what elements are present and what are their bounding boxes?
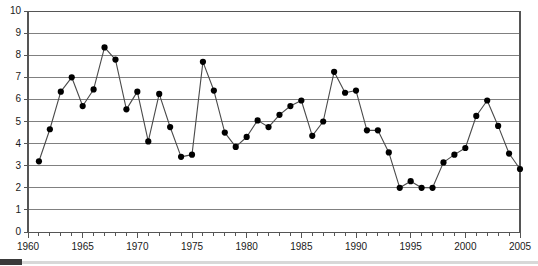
x-axis-tick-label: 1985 bbox=[281, 242, 321, 252]
data-point bbox=[167, 124, 173, 130]
data-point bbox=[309, 133, 315, 139]
data-point bbox=[484, 97, 490, 103]
data-point bbox=[440, 159, 446, 165]
data-point bbox=[298, 97, 304, 103]
data-point bbox=[233, 144, 239, 150]
data-point bbox=[156, 91, 162, 97]
data-point bbox=[353, 87, 359, 93]
data-point bbox=[462, 145, 468, 151]
data-point bbox=[91, 86, 97, 92]
chart-plot-area bbox=[0, 0, 538, 266]
data-point bbox=[211, 87, 217, 93]
data-point bbox=[419, 185, 425, 191]
y-axis-tick-label: 0 bbox=[0, 227, 21, 237]
data-point bbox=[244, 134, 250, 140]
data-point bbox=[101, 44, 107, 50]
data-point bbox=[112, 57, 118, 63]
data-point bbox=[320, 118, 326, 124]
data-point bbox=[397, 185, 403, 191]
y-axis-tick-label: 4 bbox=[0, 139, 21, 149]
x-axis-tick-label: 2000 bbox=[445, 242, 485, 252]
data-point bbox=[58, 89, 64, 95]
data-point bbox=[364, 127, 370, 133]
data-point bbox=[189, 152, 195, 158]
x-axis-tick-label: 1990 bbox=[336, 242, 376, 252]
y-axis-tick-label: 6 bbox=[0, 94, 21, 104]
x-axis-tick-label: 1980 bbox=[227, 242, 267, 252]
y-axis-tick-label: 5 bbox=[0, 117, 21, 127]
data-point bbox=[331, 69, 337, 75]
y-axis-tick-label: 1 bbox=[0, 205, 21, 215]
y-axis-tick-label: 8 bbox=[0, 50, 21, 60]
data-point bbox=[255, 117, 261, 123]
data-point bbox=[451, 152, 457, 158]
data-point bbox=[47, 126, 53, 132]
x-axis-tick-label: 2005 bbox=[500, 242, 538, 252]
data-point bbox=[506, 150, 512, 156]
data-point bbox=[495, 123, 501, 129]
y-axis-tick-label: 2 bbox=[0, 183, 21, 193]
data-point bbox=[386, 149, 392, 155]
data-point bbox=[123, 106, 129, 112]
line-chart: 0123456789101960196519701975198019851990… bbox=[0, 0, 538, 266]
data-point bbox=[36, 158, 42, 164]
x-axis-tick-label: 1960 bbox=[8, 242, 48, 252]
footer-tab-marker bbox=[0, 259, 22, 265]
data-point bbox=[342, 90, 348, 96]
data-point bbox=[134, 89, 140, 95]
data-point bbox=[265, 124, 271, 130]
data-point bbox=[408, 178, 414, 184]
y-axis-tick-label: 3 bbox=[0, 161, 21, 171]
x-axis-tick-label: 1995 bbox=[391, 242, 431, 252]
data-point bbox=[429, 185, 435, 191]
y-axis-tick-label: 10 bbox=[0, 6, 21, 16]
footer-divider bbox=[0, 261, 538, 264]
x-axis-tick-label: 1970 bbox=[117, 242, 157, 252]
data-point bbox=[473, 113, 479, 119]
data-point bbox=[222, 129, 228, 135]
data-point bbox=[276, 112, 282, 118]
y-axis-tick-label: 7 bbox=[0, 72, 21, 82]
x-axis-tick-label: 1965 bbox=[63, 242, 103, 252]
data-point bbox=[80, 103, 86, 109]
data-point bbox=[287, 103, 293, 109]
data-point bbox=[517, 166, 523, 172]
x-axis-tick-label: 1975 bbox=[172, 242, 212, 252]
y-axis-tick-label: 9 bbox=[0, 28, 21, 38]
data-point bbox=[145, 138, 151, 144]
data-point bbox=[69, 74, 75, 80]
data-point bbox=[200, 59, 206, 65]
data-point bbox=[178, 154, 184, 160]
data-point bbox=[375, 127, 381, 133]
